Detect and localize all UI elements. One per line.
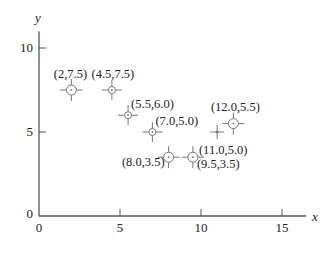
data-points: (2,7.5)(4.5,7.5)(5.5,6.0)(7.0,5.0)(8.0,3… bbox=[54, 67, 260, 171]
point-label: (4.5,7.5) bbox=[92, 67, 135, 81]
point-label: (8.0,3.5) bbox=[122, 155, 165, 169]
data-point: (7.0,5.0) bbox=[142, 114, 198, 142]
data-point: (8.0,3.5) bbox=[122, 146, 180, 169]
x-tick-label: 0 bbox=[36, 220, 43, 235]
y-axis-label: y bbox=[33, 10, 41, 25]
data-point: (4.5,7.5) bbox=[92, 67, 135, 100]
x-tick-label: 5 bbox=[117, 220, 124, 235]
point-label: (5.5,6.0) bbox=[131, 97, 174, 111]
point-label: (7.0,5.0) bbox=[155, 114, 198, 128]
point-label: (12.0,5.5) bbox=[211, 100, 260, 114]
data-point: (11.0,5.0) bbox=[199, 125, 248, 157]
scatter-chart: 0510150510 (2,7.5)(4.5,7.5)(5.5,6.0)(7.0… bbox=[0, 0, 330, 254]
x-tick-label: 10 bbox=[195, 220, 208, 235]
y-tick-label: 10 bbox=[20, 40, 33, 55]
data-point: (12.0,5.5) bbox=[211, 100, 260, 135]
x-tick-label: 15 bbox=[276, 220, 289, 235]
point-label: (2,7.5) bbox=[54, 67, 87, 81]
axes: 0510150510 bbox=[20, 31, 306, 235]
point-label: (11.0,5.0) bbox=[199, 143, 248, 157]
y-tick-label: 0 bbox=[27, 206, 34, 221]
y-tick-label: 5 bbox=[27, 124, 34, 139]
data-point: (2,7.5) bbox=[54, 67, 87, 101]
x-axis-label: x bbox=[311, 209, 318, 224]
point-label: (9.5,3.5) bbox=[197, 157, 240, 171]
